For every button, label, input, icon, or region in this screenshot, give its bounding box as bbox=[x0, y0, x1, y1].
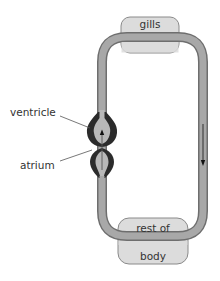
body-label: body bbox=[140, 250, 166, 262]
ventricle-label: ventricle bbox=[10, 106, 56, 118]
rest-of-label: rest of bbox=[136, 222, 170, 234]
body-organ-lower bbox=[119, 241, 188, 245]
heart bbox=[87, 110, 117, 184]
blood-vessel-loop bbox=[102, 37, 203, 236]
atrium-label: atrium bbox=[20, 159, 55, 171]
circulation-diagram: gills rest of body ventricle atrium bbox=[0, 0, 220, 281]
gills-organ-lower bbox=[122, 42, 179, 53]
gills-label: gills bbox=[140, 18, 161, 30]
atrium-leader-line bbox=[60, 150, 92, 161]
ventricle-leader-line bbox=[60, 116, 90, 128]
diagram-canvas: gills rest of body ventricle atrium bbox=[0, 0, 220, 281]
